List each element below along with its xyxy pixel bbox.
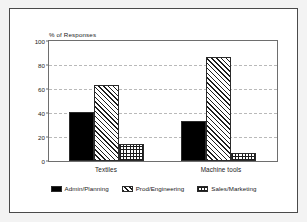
y-axis-tick-label: 0 (42, 158, 45, 165)
y-axis-title: % of Responses (49, 31, 96, 38)
bar (94, 85, 119, 161)
y-axis-tick-mark (46, 89, 49, 90)
legend-label: Sales/Marketing (211, 185, 256, 192)
y-axis-tick-mark (46, 137, 49, 138)
legend-item-prod-engineering: Prod/Engineering (122, 185, 185, 192)
bar (231, 153, 256, 161)
legend-swatch-icon (197, 186, 208, 192)
grid-line (49, 89, 277, 90)
bar (181, 121, 206, 161)
figure-page: % of Responses 100806040200 Textiles Mac… (0, 0, 307, 222)
legend-label: Admin/Planning (65, 185, 109, 192)
bar (69, 112, 94, 161)
figure-frame: % of Responses 100806040200 Textiles Mac… (9, 8, 298, 213)
legend-item-admin-planning: Admin/Planning (51, 185, 109, 192)
legend-label: Prod/Engineering (136, 185, 185, 192)
y-axis-tick-label: 60 (38, 86, 45, 93)
y-axis-tick-mark (46, 161, 49, 162)
y-axis-tick-mark (46, 65, 49, 66)
grid-line (49, 65, 277, 66)
x-axis-tick-label: Machine tools (201, 166, 242, 173)
y-axis-tick-label: 20 (38, 134, 45, 141)
plot-area: 100806040200 (48, 40, 278, 162)
bar-chart: % of Responses 100806040200 Textiles Mac… (10, 9, 297, 212)
bar (119, 144, 144, 161)
y-axis-tick-label: 40 (38, 110, 45, 117)
y-axis-tick-label: 100 (35, 38, 45, 45)
legend-swatch-icon (122, 186, 133, 192)
chart-legend: Admin/Planning Prod/Engineering Sales/Ma… (10, 185, 297, 192)
x-axis-tick-label: Textiles (95, 166, 117, 173)
y-axis-tick-label: 80 (38, 62, 45, 69)
bar (206, 57, 231, 161)
y-axis-tick-mark (46, 113, 49, 114)
y-axis-tick-mark (46, 41, 49, 42)
legend-item-sales-marketing: Sales/Marketing (197, 185, 256, 192)
legend-swatch-icon (51, 186, 62, 192)
